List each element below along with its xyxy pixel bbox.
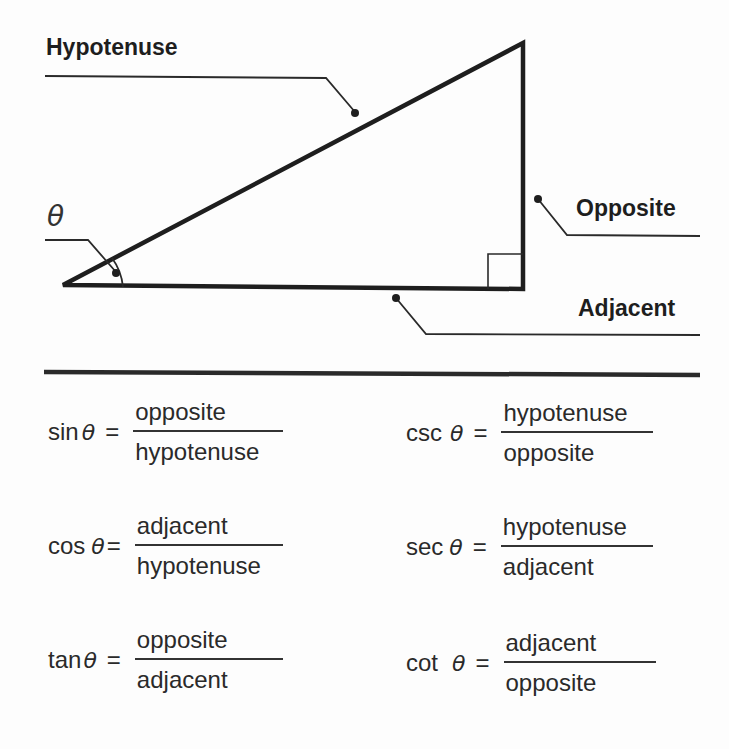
denominator: opposite xyxy=(504,663,597,695)
fraction: hypotenuse adjacent xyxy=(501,515,653,579)
formula-sin: sinθ = opposite hypotenuse xyxy=(48,400,283,464)
function-name: sin xyxy=(48,418,79,446)
fraction: opposite hypotenuse xyxy=(133,400,283,464)
theta-dot xyxy=(112,269,120,277)
fraction: adjacent hypotenuse xyxy=(135,514,283,578)
theta-symbol: θ xyxy=(450,421,463,446)
denominator: adjacent xyxy=(501,547,594,579)
right-angle-marker xyxy=(488,254,523,289)
equals-sign: = xyxy=(475,649,489,677)
triangle xyxy=(63,43,523,289)
formula-sec: secθ = hypotenuse adjacent xyxy=(406,515,653,579)
theta-symbol: θ xyxy=(82,420,95,445)
formula-tan: tanθ = opposite adjacent xyxy=(48,628,283,692)
equals-sign: = xyxy=(107,646,121,674)
hypotenuse-dot xyxy=(351,109,359,117)
opposite-label: Opposite xyxy=(576,195,676,222)
adjacent-dot xyxy=(392,294,400,302)
equals-sign: = xyxy=(473,533,487,561)
function-name: cot xyxy=(406,649,438,677)
numerator: adjacent xyxy=(504,631,597,661)
function-name: tan xyxy=(48,646,81,674)
hypotenuse-label: Hypotenuse xyxy=(46,34,178,61)
theta-label: θ xyxy=(47,200,64,233)
theta-symbol: θ xyxy=(449,535,462,560)
numerator: hypotenuse xyxy=(501,515,627,545)
equals-sign: = xyxy=(107,532,121,560)
denominator: adjacent xyxy=(135,660,228,692)
function-name: cos xyxy=(48,532,85,560)
denominator: opposite xyxy=(501,433,594,465)
fraction: opposite adjacent xyxy=(135,628,283,692)
fraction: adjacent opposite xyxy=(504,631,656,695)
theta-leader xyxy=(45,240,116,272)
function-name: sec xyxy=(406,533,443,561)
equals-sign: = xyxy=(105,418,119,446)
theta-symbol: θ xyxy=(91,534,104,559)
equals-sign: = xyxy=(473,419,487,447)
adjacent-label: Adjacent xyxy=(578,295,675,322)
formula-cos: cosθ = adjacent hypotenuse xyxy=(48,514,283,578)
theta-symbol: θ xyxy=(83,648,96,673)
denominator: hypotenuse xyxy=(133,432,259,464)
formula-csc: cscθ = hypotenuse opposite xyxy=(406,401,653,465)
formula-cot: cotθ = adjacent opposite xyxy=(406,631,656,695)
denominator: hypotenuse xyxy=(135,546,261,578)
numerator: opposite xyxy=(133,400,226,430)
theta-symbol: θ xyxy=(452,651,465,676)
hypotenuse-leader xyxy=(45,76,355,112)
numerator: adjacent xyxy=(135,514,228,544)
numerator: opposite xyxy=(135,628,228,658)
fraction: hypotenuse opposite xyxy=(501,401,653,465)
function-name: csc xyxy=(406,419,442,447)
opposite-dot xyxy=(534,195,542,203)
numerator: hypotenuse xyxy=(501,401,627,431)
separator-line xyxy=(44,372,700,375)
